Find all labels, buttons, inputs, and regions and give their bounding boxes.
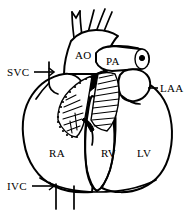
label-ivc: IVC	[7, 180, 27, 192]
heart-anatomy-figure: SVC AO PA LAA RA RV LV IVC	[0, 0, 194, 213]
heart-diagram-svg: SVC AO PA LAA RA RV LV IVC	[0, 0, 194, 213]
label-rv: RV	[101, 147, 116, 159]
label-ao: AO	[75, 49, 92, 61]
pulmonary-artery-lumen-dot	[139, 55, 144, 60]
arch-branch-notch	[72, 11, 80, 18]
label-laa: LAA	[160, 82, 184, 94]
label-svc: SVC	[7, 66, 29, 78]
label-pa: PA	[106, 55, 120, 67]
label-lv: LV	[137, 147, 151, 159]
left-subclavian-stub	[96, 9, 105, 32]
label-ra: RA	[49, 147, 65, 159]
pulmonary-artery-group	[96, 46, 149, 71]
coronary-branch-tail	[92, 131, 93, 145]
